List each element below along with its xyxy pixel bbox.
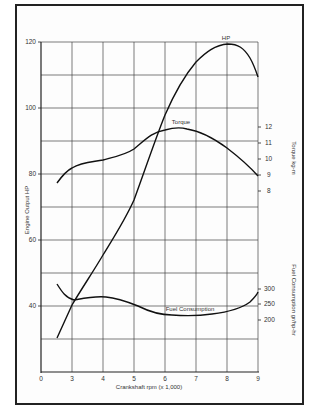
y-axis-label-left: Engine Output HP (24, 186, 30, 234)
x-tick-4: 4 (101, 375, 105, 382)
x-tick-7: 7 (194, 375, 198, 382)
y-axis-label-torque: Torque kg-m (291, 141, 297, 174)
engine-performance-chart: 120 100 80 60 40 0 3 4 5 6 7 8 9 Cranksh… (0, 0, 319, 417)
y-tick-40: 40 (29, 302, 37, 309)
x-tick-0: 0 (39, 375, 43, 382)
torque-tick-12: 12 (265, 123, 273, 130)
fuel-tick-200: 200 (264, 316, 275, 323)
x-axis-label: Crankshaft rpm (x 1,000) (116, 384, 182, 390)
fuel-tick-300: 300 (264, 285, 275, 292)
torque-tick-10: 10 (265, 155, 273, 162)
x-tick-5: 5 (132, 375, 136, 382)
hp-curve (57, 44, 258, 338)
grid (41, 42, 258, 372)
fuel-curve-label: Fuel Consumption (166, 306, 215, 312)
x-tick-3: 3 (70, 375, 74, 382)
torque-tick-9: 9 (267, 171, 271, 178)
x-tick-6: 6 (163, 375, 167, 382)
y-tick-100: 100 (25, 104, 36, 111)
y-tick-80: 80 (29, 170, 37, 177)
fuel-tick-250: 250 (264, 300, 275, 307)
torque-tick-11: 11 (265, 139, 272, 146)
torque-curve-label: Torque (172, 119, 191, 125)
y-axis-label-fuel: Fuel Consumption gr/hp-hr (291, 264, 297, 335)
y-tick-120: 120 (25, 38, 36, 45)
x-tick-9: 9 (256, 375, 260, 382)
torque-tick-8: 8 (267, 187, 271, 194)
fuel-consumption-curve (57, 284, 258, 316)
x-tick-8: 8 (225, 375, 229, 382)
y-tick-60: 60 (29, 236, 37, 243)
hp-curve-label: HP (222, 35, 230, 41)
